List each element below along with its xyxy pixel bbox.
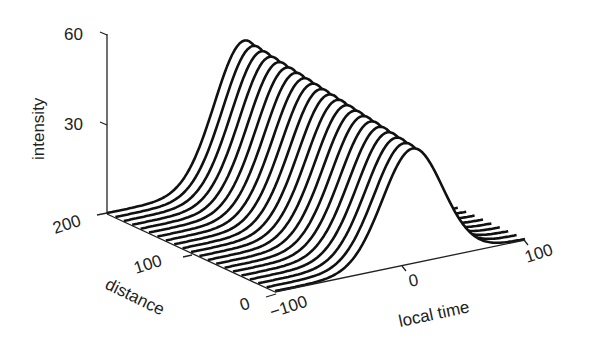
y-tick-label-200: 200 (50, 211, 83, 238)
y-tick-label-0: 0 (237, 294, 252, 315)
y-tick-label-100: 100 (131, 251, 164, 278)
y-axis-label: distance (102, 275, 167, 320)
y-tick-100 (183, 255, 192, 257)
z-tick-label-30: 30 (64, 115, 83, 134)
z-tick-60 (100, 32, 107, 35)
z-tick-30 (100, 122, 107, 125)
y-tick-0 (266, 294, 276, 297)
x-tick-label-0: 0 (407, 270, 420, 291)
y-tick-200 (97, 213, 107, 215)
x-tick-label-m100: −100 (267, 292, 309, 322)
pulse-curves (107, 41, 525, 295)
waterfall-chart: 60 30 200 100 0 −100 0 100 intensity dis… (0, 0, 589, 344)
z-axis-label: intensity (29, 97, 48, 160)
z-tick-label-60: 60 (64, 25, 83, 44)
x-axis-label: local time (397, 297, 471, 331)
x-tick-100 (524, 240, 528, 245)
